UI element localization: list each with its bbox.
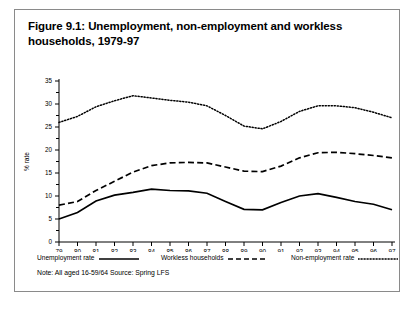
legend-item-workless-households[interactable]: Workless households [161, 253, 268, 263]
y-axis-tick-label: 30 [45, 100, 53, 107]
x-axis-tick-label: 89 [240, 248, 248, 252]
y-axis-tick-label: 25 [45, 123, 53, 130]
chart-plot-area: 05101520253035% rate79808182838485868788… [15, 62, 399, 252]
series-line-non-employment-rate [59, 96, 392, 129]
x-axis-tick-label: 87 [203, 248, 211, 252]
series-line-unemployment-rate [59, 189, 392, 219]
y-axis-tick-label: 5 [48, 215, 52, 222]
y-axis-title: % rate [23, 152, 30, 171]
x-axis-tick-label: 90 [259, 248, 267, 252]
x-axis-tick-label: 88 [222, 248, 230, 252]
x-axis-tick-label: 93 [314, 248, 322, 252]
y-axis-tick-label: 15 [45, 169, 53, 176]
x-axis-tick-label: 81 [92, 248, 100, 252]
figure-panel: Figure 9.1: Unemployment, non-employment… [14, 9, 400, 292]
y-axis-tick-label: 35 [45, 77, 53, 84]
legend-line-sample-solid [99, 255, 139, 261]
x-axis-tick-label: 92 [296, 248, 304, 252]
x-axis-tick-label: 86 [185, 248, 193, 252]
figure-title: Figure 9.1: Unemployment, non-employment… [28, 19, 380, 49]
legend-item-non-employment-rate[interactable]: Non-employment rate [291, 253, 398, 263]
x-axis-tick-label: 91 [277, 248, 285, 252]
x-axis-tick-label: 82 [111, 248, 119, 252]
x-axis-tick-label: 95 [351, 248, 359, 252]
legend-line-sample-dotted [358, 255, 398, 261]
x-axis-tick-label: 80 [74, 248, 82, 252]
y-axis-tick-label: 20 [45, 146, 53, 153]
y-axis-tick-label: 10 [45, 192, 53, 199]
x-axis-tick-label: 85 [166, 248, 174, 252]
legend-label: Workless households [161, 254, 224, 261]
x-axis-tick-label: 83 [129, 248, 137, 252]
legend-line-sample-dashed [228, 255, 268, 261]
legend-label: Unemployment rate [37, 254, 95, 261]
y-axis-tick-label: 0 [48, 238, 52, 245]
x-axis-tick-label: 96 [370, 248, 378, 252]
line-chart: 05101520253035% rate79808182838485868788… [15, 62, 399, 252]
x-axis-tick-label: 79 [55, 248, 63, 252]
figure-note: Note: All aged 16-59/64 Source: Spring L… [37, 269, 169, 276]
legend-label: Non-employment rate [291, 254, 354, 261]
x-axis-tick-label: 84 [148, 248, 156, 252]
x-axis-tick-label: 94 [333, 248, 341, 252]
legend-item-unemployment-rate[interactable]: Unemployment rate [37, 253, 139, 263]
chart-legend: Unemployment rateWorkless householdsNon-… [37, 253, 393, 266]
x-axis-tick-label: 97 [388, 248, 396, 252]
